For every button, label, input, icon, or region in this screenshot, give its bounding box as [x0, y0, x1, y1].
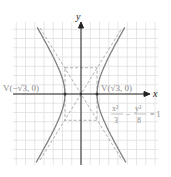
- x-axis-label: x: [152, 88, 158, 99]
- hyperbola-diagram: x y V(−√3, 0) V(√3, 0) x² 3 − y² 8 = 1: [0, 0, 171, 177]
- eq-term2-num: y²: [135, 104, 142, 113]
- eq-term1-num: x²: [112, 104, 119, 113]
- left-vertex-label: V(−√3, 0): [3, 83, 39, 93]
- y-axis-label: y: [75, 11, 81, 22]
- eq-rhs: = 1: [150, 110, 161, 119]
- eq-term2-den: 8: [137, 116, 141, 125]
- right-vertex-label: V(√3, 0): [101, 83, 132, 93]
- eq-term1-den: 3: [114, 116, 118, 125]
- eq-minus: −: [126, 110, 131, 119]
